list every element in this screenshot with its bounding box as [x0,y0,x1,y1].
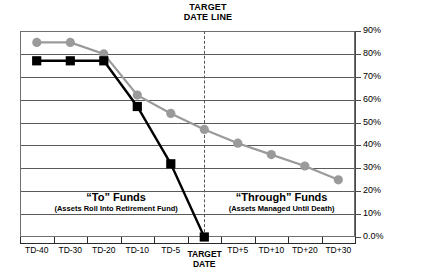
y-axis-tick [355,214,361,215]
y-axis-label: 50% [363,118,381,127]
y-axis-spine [355,31,356,237]
y-axis-label: 90% [363,26,381,35]
target-date-vline [204,31,205,237]
y-axis-tick [355,145,361,146]
y-axis-tick [355,31,361,32]
x-axis-label: TD-10 [121,245,155,255]
x-axis-label: TD+30 [322,245,356,255]
x-axis-tick [355,237,356,244]
y-axis-tick [355,54,361,55]
y-axis-label: 80% [363,49,381,58]
y-axis-tick [355,100,361,101]
x-axis-tick [121,237,122,244]
gridline [21,100,354,101]
x-axis-tick [20,237,21,244]
y-axis-label: 30% [363,163,381,172]
region-to-funds: “To” Funds (Assets Roll Into Retirement … [30,192,202,214]
x-axis-tick [87,237,88,244]
gridline [21,77,354,78]
y-axis-label: 60% [363,95,381,104]
y-axis-label: 70% [363,72,381,81]
x-axis-label: TD-5 [154,245,188,255]
y-axis-tick [355,123,361,124]
x-axis-tick [221,237,222,244]
region-to-funds-subtitle: (Assets Roll Into Retirement Fund) [30,203,202,214]
y-axis-tick [355,168,361,169]
region-through-funds-subtitle: (Assets Managed Until Death) [210,203,353,214]
y-axis-title: Equity as a % of Portfolio [414,0,427,28]
target-date-line-title: TARGET DATE LINE [148,2,268,22]
x-axis-label-target-date: TARGET DATE [188,249,222,269]
x-axis-tick [288,237,289,244]
y-axis-label: 0.0% [363,232,384,241]
region-through-funds: “Through” Funds (Assets Managed Until De… [210,192,353,214]
x-axis-label: TD-30 [54,245,88,255]
chart-root: TARGET DATE LINE 90%80%70%60%50%40%30%20… [0,0,427,280]
x-axis-label: TD+10 [255,245,289,255]
gridline [21,123,354,124]
x-axis-label: TD-20 [87,245,121,255]
gridline [21,214,354,215]
y-axis-tick [355,77,361,78]
gridline [21,168,354,169]
x-axis-label: TD+20 [288,245,322,255]
x-axis-tick [188,237,189,244]
y-axis-label: 40% [363,140,381,149]
y-axis-label: 10% [363,209,381,218]
y-axis-tick [355,191,361,192]
gridline [21,54,354,55]
x-axis-label: TD+5 [221,245,255,255]
x-axis-tick [154,237,155,244]
x-axis-label: TD-40 [20,245,54,255]
region-to-funds-title: “To” Funds [30,192,202,203]
x-axis-tick [54,237,55,244]
y-axis-label: 20% [363,186,381,195]
x-axis-tick [322,237,323,244]
gridline [21,145,354,146]
region-through-funds-title: “Through” Funds [210,192,353,203]
x-axis-tick [255,237,256,244]
